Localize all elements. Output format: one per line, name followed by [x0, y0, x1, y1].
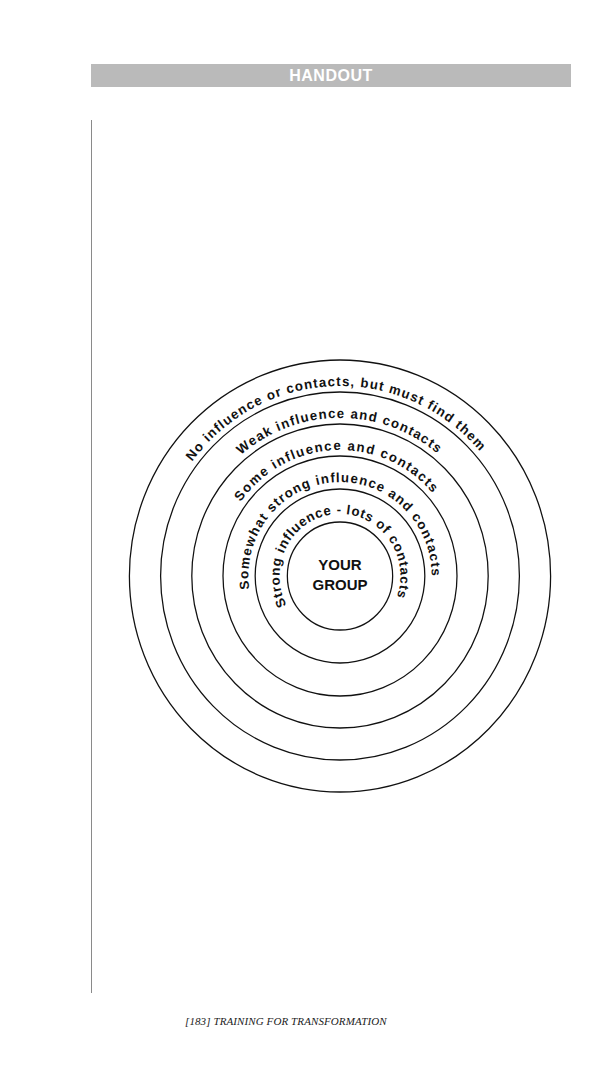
center-label-group: GROUP [312, 576, 367, 593]
page-footer: [183] TRAINING FOR TRANSFORMATION [185, 1015, 387, 1027]
concentric-influence-diagram: No influence or contacts, but must find … [0, 0, 614, 1070]
center-label-your: YOUR [318, 556, 362, 573]
